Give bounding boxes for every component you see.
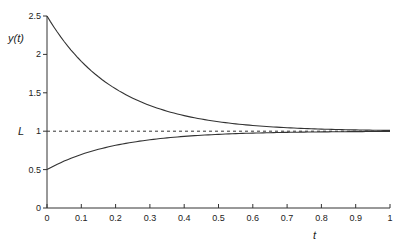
x-tick-label: 1 [387,213,392,223]
x-axis-label: t [313,229,317,241]
x-tick-label: 0.4 [178,213,191,223]
y-tick-label: 2.5 [28,11,41,21]
upper-curve [47,16,390,130]
y-tick-label: 1 [36,126,41,136]
y-tick-label: 0.5 [28,165,41,175]
x-tick-label: 0.9 [349,213,362,223]
y-axis-label: y(t) [7,32,24,44]
x-tick-label: 0.3 [144,213,157,223]
y-tick-label: 0 [36,203,41,213]
x-tick-label: 0.1 [75,213,88,223]
x-tick-label: 0.6 [247,213,260,223]
x-tick-label: 0.7 [281,213,294,223]
equilibrium-label: L [18,125,24,137]
chart: 00.10.20.30.40.50.60.70.80.9100.511.522.… [0,0,401,246]
x-tick-label: 0.8 [315,213,328,223]
x-tick-label: 0.5 [212,213,225,223]
x-tick-label: 0 [44,213,49,223]
y-tick-label: 1.5 [28,88,41,98]
lower-curve [47,131,390,169]
x-tick-label: 0.2 [109,213,122,223]
y-tick-label: 2 [36,49,41,59]
